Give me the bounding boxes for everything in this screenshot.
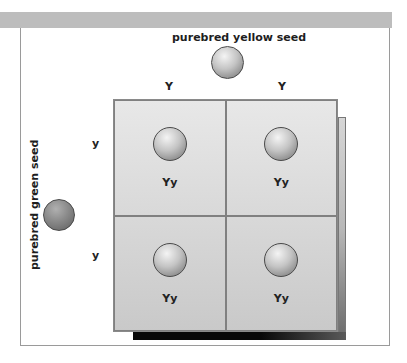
top-gamete-1: Y [165, 80, 173, 93]
left-gamete-1: y [92, 137, 99, 150]
green-parent-label: purebred green seed [28, 140, 41, 270]
yellow-parent-label: purebred yellow seed [172, 31, 306, 44]
left-gamete-2: y [92, 249, 99, 262]
grid-shadow-bottom [133, 332, 346, 340]
punnett-cell: Yy [226, 100, 338, 216]
offspring-seed-icon [264, 243, 298, 277]
genotype-label: Yy [227, 176, 337, 189]
punnett-cell: Yy [114, 100, 226, 216]
yellow-seed-icon [211, 46, 244, 79]
offspring-seed-icon [153, 127, 187, 161]
punnett-cell: Yy [226, 216, 338, 332]
offspring-seed-icon [153, 243, 187, 277]
offspring-seed-icon [264, 127, 298, 161]
genotype-label: Yy [115, 292, 225, 305]
header-band [0, 12, 392, 28]
top-gamete-2: Y [278, 80, 286, 93]
genotype-label: Yy [115, 176, 225, 189]
punnett-square: Yy Yy Yy Yy [113, 99, 338, 332]
grid-shadow-right [338, 117, 346, 340]
green-seed-icon [43, 199, 75, 231]
genotype-label: Yy [227, 292, 337, 305]
punnett-cell: Yy [114, 216, 226, 332]
